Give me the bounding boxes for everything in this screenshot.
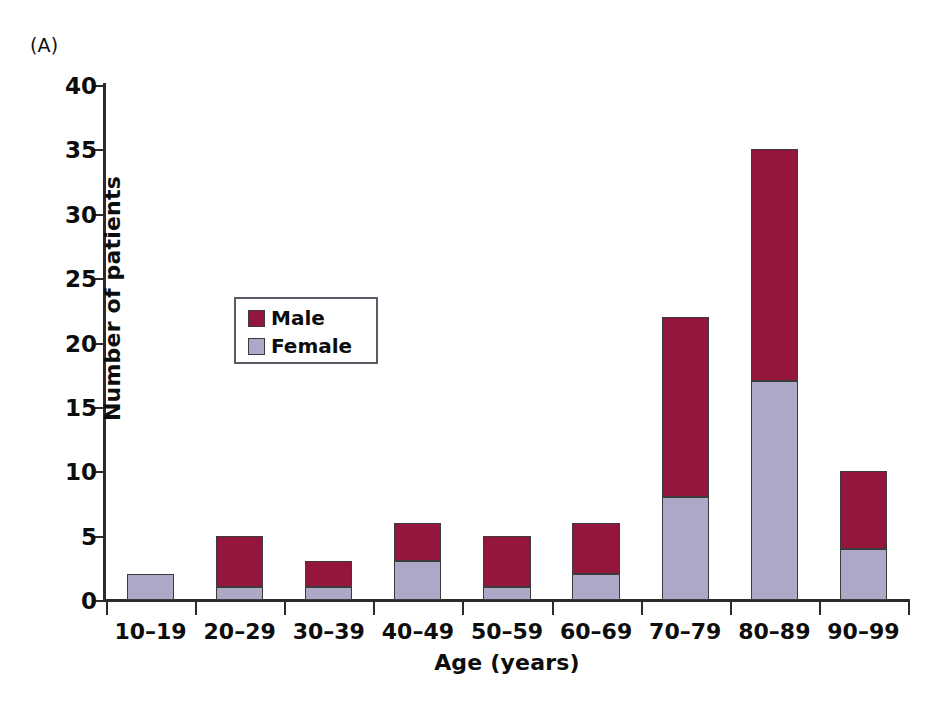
x-category-label: 30–39 bbox=[284, 619, 373, 644]
figure-panel-a: (A) 0510152025303540 10–1920–2930–3940–4… bbox=[0, 0, 947, 703]
y-tick-label: 20 bbox=[65, 331, 97, 357]
legend-item-male[interactable]: Male bbox=[248, 304, 376, 332]
bar-stack[interactable] bbox=[127, 85, 174, 600]
bar-segment-female[interactable] bbox=[394, 561, 441, 600]
x-tick-mark bbox=[819, 602, 821, 615]
y-axis-title: Number of patients bbox=[100, 176, 125, 421]
x-category-label: 90–99 bbox=[819, 619, 908, 644]
bar-segment-female[interactable] bbox=[572, 574, 619, 600]
x-tick-mark bbox=[641, 602, 643, 615]
x-category-label: 40–49 bbox=[373, 619, 462, 644]
legend-label: Male bbox=[271, 308, 325, 328]
x-category-label: 70–79 bbox=[641, 619, 730, 644]
y-tick-label: 40 bbox=[65, 73, 97, 99]
bar-segment-male[interactable] bbox=[305, 561, 352, 587]
x-tick-mark bbox=[730, 602, 732, 615]
x-category-label: 80–89 bbox=[730, 619, 819, 644]
legend-item-female[interactable]: Female bbox=[248, 332, 376, 360]
bar-segment-male[interactable] bbox=[662, 317, 709, 497]
y-tick-label: 0 bbox=[81, 588, 97, 614]
x-category-label: 60–69 bbox=[552, 619, 641, 644]
bar-stack[interactable] bbox=[662, 85, 709, 600]
bar-segment-female[interactable] bbox=[127, 574, 174, 600]
x-axis-title: Age (years) bbox=[106, 650, 908, 675]
bar-segment-female[interactable] bbox=[662, 497, 709, 600]
bar-stack[interactable] bbox=[840, 85, 887, 600]
bar-stack[interactable] bbox=[394, 85, 441, 600]
x-category-label: 10–19 bbox=[106, 619, 195, 644]
y-tick-label: 5 bbox=[81, 524, 97, 550]
x-tick-mark bbox=[195, 602, 197, 615]
x-category-label: 50–59 bbox=[462, 619, 551, 644]
bar-segment-female[interactable] bbox=[216, 587, 263, 600]
bar-segment-male[interactable] bbox=[216, 536, 263, 588]
x-tick-mark bbox=[552, 602, 554, 615]
bar-segment-male[interactable] bbox=[840, 471, 887, 548]
x-tick-mark bbox=[462, 602, 464, 615]
bar-segment-female[interactable] bbox=[483, 587, 530, 600]
legend: MaleFemale bbox=[234, 297, 378, 364]
bar-stack[interactable] bbox=[572, 85, 619, 600]
bar-segment-male[interactable] bbox=[483, 536, 530, 588]
bar-segment-male[interactable] bbox=[751, 149, 798, 381]
bar-segment-female[interactable] bbox=[305, 587, 352, 600]
bar-segment-female[interactable] bbox=[840, 549, 887, 601]
legend-swatch-male bbox=[248, 310, 265, 327]
legend-label: Female bbox=[271, 336, 352, 356]
x-tick-mark bbox=[284, 602, 286, 615]
legend-swatch-female bbox=[248, 338, 265, 355]
bar-segment-male[interactable] bbox=[394, 523, 441, 562]
y-tick-label: 25 bbox=[65, 266, 97, 292]
bar-segment-female[interactable] bbox=[751, 381, 798, 600]
y-tick-label: 35 bbox=[65, 137, 97, 163]
plot-area: 0510152025303540 10–1920–2930–3940–4950–… bbox=[106, 85, 908, 600]
x-tick-mark bbox=[908, 602, 910, 615]
x-tick-mark bbox=[373, 602, 375, 615]
panel-label: (A) bbox=[30, 34, 58, 56]
y-tick-label: 15 bbox=[65, 395, 97, 421]
y-tick-label: 30 bbox=[65, 202, 97, 228]
bar-stack[interactable] bbox=[483, 85, 530, 600]
bar-segment-male[interactable] bbox=[572, 523, 619, 575]
x-category-label: 20–29 bbox=[195, 619, 284, 644]
bar-stack[interactable] bbox=[751, 85, 798, 600]
y-tick-label: 10 bbox=[65, 459, 97, 485]
x-tick-mark bbox=[106, 602, 108, 615]
